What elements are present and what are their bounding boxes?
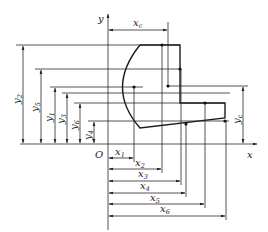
dim-label-y4: y4: [82, 130, 95, 141]
point-3: [178, 67, 181, 70]
x-axis-label: x: [247, 149, 253, 160]
y-axis-label: y: [97, 13, 104, 24]
dim-label-x4: x4: [140, 180, 150, 193]
dim-label-yc: yc: [231, 114, 244, 125]
point-2: [160, 43, 163, 46]
origin-label: O: [95, 149, 103, 160]
dim-label-y2: y2: [11, 94, 24, 105]
dim-label-x5: x5: [150, 192, 160, 205]
dim-label-x1: x1: [115, 146, 125, 159]
dim-label-y6: y6: [68, 120, 81, 131]
shape-outline: [123, 45, 226, 128]
centroid-diagram: x y O xc yc x1 x2 x3 x4 x5 x6 y2 y5: [0, 0, 268, 232]
point-6: [223, 119, 226, 122]
point-1: [132, 85, 135, 88]
dim-label-y3: y3: [55, 114, 68, 125]
dim-label-x6: x6: [160, 203, 170, 216]
dim-label-y5: y5: [29, 102, 42, 113]
point-5: [203, 101, 206, 104]
dim-label-xc: xc: [133, 17, 143, 30]
point-4: [184, 122, 187, 125]
centroid-point: [166, 84, 169, 87]
